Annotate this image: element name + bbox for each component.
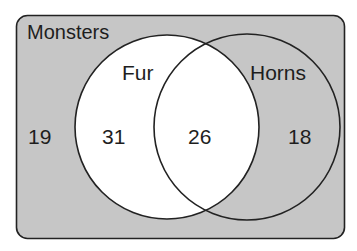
intersection-count: 26 bbox=[188, 125, 211, 148]
universe-label: Monsters bbox=[27, 21, 109, 43]
horns-only-count: 18 bbox=[288, 125, 311, 148]
venn-diagram: Monsters Fur Horns 19 31 26 18 bbox=[0, 0, 357, 251]
fur-label: Fur bbox=[122, 61, 154, 84]
fur-only-count: 31 bbox=[102, 125, 125, 148]
outside-count: 19 bbox=[28, 125, 51, 148]
horns-label: Horns bbox=[250, 61, 306, 84]
